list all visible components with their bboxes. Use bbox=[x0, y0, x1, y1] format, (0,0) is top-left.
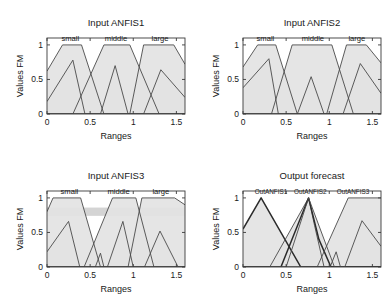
y-tick-label: 0.5 bbox=[227, 74, 239, 84]
y-tick-label: 0.5 bbox=[227, 227, 239, 237]
x-tick-label: 0 bbox=[45, 270, 50, 280]
panel-title: Input ANFIS3 bbox=[88, 170, 145, 181]
x-axis-label: Ranges bbox=[296, 284, 328, 294]
mf-label: OutANFIS1 bbox=[255, 188, 288, 195]
x-tick-label: 1.5 bbox=[170, 117, 182, 127]
mf-label: large bbox=[152, 34, 169, 43]
x-axis-label: Ranges bbox=[100, 284, 132, 294]
y-tick-label: 1 bbox=[38, 40, 43, 50]
y-tick-label: 1 bbox=[38, 193, 43, 203]
panel-title: Input ANFIS1 bbox=[88, 17, 145, 28]
x-tick-label: 0.5 bbox=[84, 270, 96, 280]
y-tick-label: 0 bbox=[234, 262, 239, 272]
x-axis-label: Ranges bbox=[296, 131, 328, 141]
panel-title: Output forecast bbox=[280, 170, 345, 181]
y-tick-label: 1 bbox=[234, 40, 239, 50]
x-tick-label: 0.5 bbox=[84, 117, 96, 127]
y-tick-label: 0.5 bbox=[31, 74, 43, 84]
y-axis-label: Values FM bbox=[211, 55, 221, 97]
x-tick-label: 1 bbox=[131, 270, 136, 280]
x-tick-label: 0.5 bbox=[280, 270, 292, 280]
panel-input-anfis2: Input ANFIS200.511.500.51RangesValues FM… bbox=[196, 0, 392, 153]
mf-label: OutANFIS3 bbox=[337, 188, 370, 195]
mf-label: small bbox=[61, 187, 79, 196]
x-tick-label: 1 bbox=[327, 117, 332, 127]
y-tick-label: 0 bbox=[38, 109, 43, 119]
mf-label: OutANFIS2 bbox=[294, 188, 327, 195]
x-tick-label: 0 bbox=[45, 117, 50, 127]
panel-output-forecast: Output forecast00.511.500.51RangesValues… bbox=[196, 153, 392, 306]
x-axis-label: Ranges bbox=[100, 131, 132, 141]
mf-label: large bbox=[152, 187, 169, 196]
x-tick-label: 1 bbox=[131, 117, 136, 127]
mf-label: middle bbox=[107, 187, 129, 196]
x-tick-label: 1.5 bbox=[366, 270, 378, 280]
y-tick-label: 0 bbox=[234, 109, 239, 119]
panel-input-anfis3: Input ANFIS300.511.500.51RangesValues FM… bbox=[0, 153, 196, 306]
mf-label: middle bbox=[105, 34, 127, 43]
x-tick-label: 1.5 bbox=[170, 270, 182, 280]
y-tick-label: 1 bbox=[234, 193, 239, 203]
y-tick-label: 0.5 bbox=[31, 227, 43, 237]
mf-label: middle bbox=[302, 34, 324, 43]
x-tick-label: 0 bbox=[241, 117, 246, 127]
y-axis-label: Values FM bbox=[211, 208, 221, 250]
anfis-membership-figure: Input ANFIS100.511.500.51RangesValues FM… bbox=[0, 0, 392, 306]
y-axis-label: Values FM bbox=[15, 55, 25, 97]
y-axis-label: Values FM bbox=[15, 208, 25, 250]
x-tick-label: 0 bbox=[241, 270, 246, 280]
mf-label: small bbox=[61, 34, 79, 43]
y-tick-label: 0 bbox=[38, 262, 43, 272]
panel-title: Input ANFIS2 bbox=[284, 17, 341, 28]
x-tick-label: 1 bbox=[327, 270, 332, 280]
mf-label: large bbox=[348, 34, 365, 43]
x-tick-label: 0.5 bbox=[280, 117, 292, 127]
panel-input-anfis1: Input ANFIS100.511.500.51RangesValues FM… bbox=[0, 0, 196, 153]
mf-label: small bbox=[257, 34, 275, 43]
x-tick-label: 1.5 bbox=[366, 117, 378, 127]
